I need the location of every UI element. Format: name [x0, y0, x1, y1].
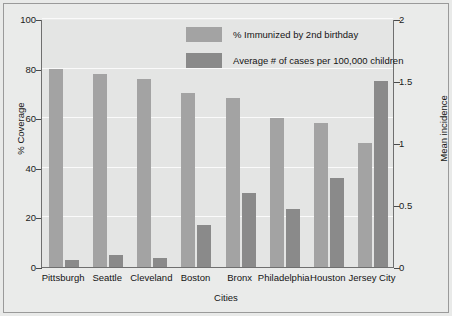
bar-immunized	[137, 79, 151, 267]
legend-swatch	[186, 27, 222, 42]
bar-immunized	[270, 118, 284, 267]
bar-immunized	[358, 143, 372, 267]
bar-incidence	[109, 255, 123, 267]
bar-immunized	[49, 69, 63, 267]
y-axis-left-ticklabel: 40	[10, 164, 36, 174]
legend-swatch	[186, 53, 222, 68]
bar-incidence	[374, 81, 388, 267]
bar-immunized	[93, 74, 107, 267]
bar-immunized	[314, 123, 328, 267]
x-axis-ticklabel: Jersey City	[340, 272, 404, 283]
bar-incidence	[197, 225, 211, 267]
bar-incidence	[242, 193, 256, 267]
y-axis-right-title: Mean incidence	[438, 84, 449, 174]
bar-immunized	[226, 98, 240, 267]
bar-group	[130, 20, 174, 267]
bar-group	[86, 20, 130, 267]
bar-immunized	[181, 93, 195, 267]
bar-incidence	[286, 209, 300, 267]
y-axis-right-ticklabel: 0.5	[399, 201, 412, 211]
y-axis-left-ticklabel: 20	[10, 213, 36, 223]
legend-entry: % Immunized by 2nd birthday	[186, 27, 403, 42]
bar-incidence	[153, 258, 167, 267]
gridline	[42, 18, 393, 19]
legend-label: % Immunized by 2nd birthday	[233, 29, 358, 40]
y-axis-left-ticklabel: 100	[10, 15, 36, 25]
y-axis-left-ticklabel: 60	[10, 114, 36, 124]
y-axis-right-tickmark	[394, 268, 400, 269]
legend-entry: Average # of cases per 100,000 children	[186, 53, 403, 68]
bar-incidence	[65, 260, 79, 267]
y-axis-left-ticklabel: 80	[10, 65, 36, 75]
x-axis-title: Cities	[0, 292, 452, 303]
x-axis-ticklabels: PittsburghSeattleClevelandBostonBronxPhi…	[41, 272, 394, 288]
y-axis-left-tickmark	[36, 268, 42, 269]
legend-label: Average # of cases per 100,000 children	[233, 55, 403, 66]
chart-screenshot: % Coverage Mean incidence 020406080100 0…	[0, 0, 452, 316]
bar-group	[42, 20, 86, 267]
y-axis-left-ticklabels: 020406080100	[10, 20, 36, 268]
chart-legend: % Immunized by 2nd birthdayAverage # of …	[186, 27, 403, 79]
bar-incidence	[330, 178, 344, 267]
